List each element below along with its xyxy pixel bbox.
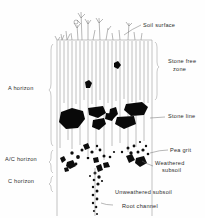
label-stone-free-zone-line-2: zone <box>173 66 186 72</box>
root-channel-trail <box>89 164 103 216</box>
label-ac-horizon: A/C horizon <box>5 156 37 162</box>
label-unweathered-subsoil: Unweathered subsoil <box>115 189 172 195</box>
label-weathered-subsoil-line-2: subsoil <box>162 167 181 173</box>
label-soil-surface: Soil surface <box>143 22 175 28</box>
horizon-brackets <box>49 44 53 192</box>
label-weathered-subsoil-line-1: Weathered <box>155 160 185 166</box>
label-stone-free-zone-line-1: Stone free <box>168 58 196 64</box>
root-channel-lines <box>60 41 148 160</box>
label-stone-line: Stone line <box>168 113 195 119</box>
surface-vegetation <box>55 12 142 40</box>
stone-line-stones <box>59 102 148 130</box>
stone-free-zone-brace <box>155 42 159 100</box>
soil-profile-diagram: A horizon A/C horizon C horizon Soil sur… <box>0 0 205 218</box>
label-c-horizon: C horizon <box>8 178 34 184</box>
label-root-channel: Root channel <box>122 203 158 209</box>
label-pea-grit: Pea grit <box>170 147 191 153</box>
isolated-stones <box>85 61 121 88</box>
label-a-horizon: A horizon <box>8 85 34 91</box>
